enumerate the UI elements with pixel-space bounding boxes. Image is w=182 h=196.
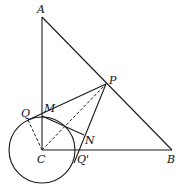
segment-mn <box>42 116 84 135</box>
segment-pq-prime <box>74 84 106 163</box>
label-p: P <box>108 74 117 87</box>
label-q-prime: Q' <box>77 153 89 166</box>
label-q: Q <box>21 107 30 120</box>
label-m: M <box>43 102 56 115</box>
geometry-diagram: A P M Q N C Q' B <box>0 0 182 196</box>
segment-pq <box>28 84 106 120</box>
label-n: N <box>84 134 95 147</box>
label-a: A <box>36 3 45 16</box>
label-c: C <box>37 153 46 166</box>
label-b: B <box>166 153 175 166</box>
dashed-cq <box>28 120 42 150</box>
